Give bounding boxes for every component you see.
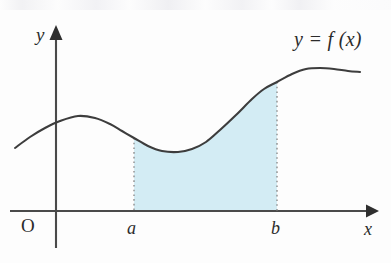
function-equation-label: y = f (x) <box>294 29 362 49</box>
shaded-area-under-curve <box>134 82 277 211</box>
x-axis-label: x <box>364 220 372 238</box>
x-axis-arrow-icon <box>366 205 379 218</box>
function-curve <box>15 68 360 152</box>
y-axis <box>50 25 63 248</box>
y-axis-arrow-icon <box>50 25 63 40</box>
lower-limit-label-a: a <box>127 219 136 237</box>
upper-limit-label-b: b <box>271 219 280 237</box>
y-axis-label: y <box>36 25 44 44</box>
integral-figure: y O a b x y = f (x) <box>0 0 391 263</box>
origin-label: O <box>21 216 35 235</box>
